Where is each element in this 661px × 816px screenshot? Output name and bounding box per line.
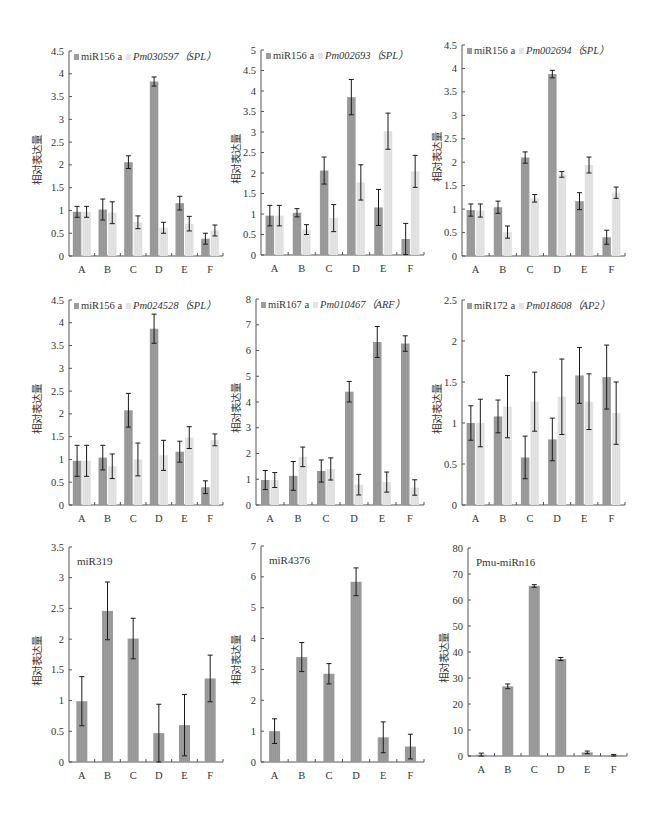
legend-label: miR156 a — [81, 51, 122, 62]
x-tick-label: C — [531, 764, 538, 775]
chart-title: miR4376 — [269, 554, 310, 566]
legend: miR156 aPm030597（SPL） — [74, 51, 216, 62]
y-tick-label: 3 — [251, 127, 256, 138]
y-tick-label: 4 — [59, 68, 65, 79]
chart-panel-1: 00.511.522.533.544.5ABCDEF相对表达量miR156 aP… — [31, 46, 223, 276]
y-tick-label: 1 — [251, 726, 256, 737]
y-tick-label: 0 — [452, 500, 457, 511]
y-tick-label: 2.5 — [51, 137, 64, 148]
x-tick-label: B — [504, 764, 511, 775]
y-tick-label: 0 — [59, 757, 64, 768]
y-tick-label: 1 — [59, 454, 64, 465]
chart-title: Pmu-miRn16 — [476, 556, 536, 568]
bar-pm002694-spl- — [585, 165, 594, 256]
x-tick-label: D — [352, 263, 360, 274]
x-tick-label: B — [499, 264, 506, 275]
chart-panel-7: 00.511.522.533.5ABCDEF相对表达量miR319 — [31, 542, 223, 782]
y-tick-label: 0.5 — [51, 477, 64, 488]
x-tick-label: B — [104, 264, 111, 275]
y-tick-label: 3 — [59, 363, 64, 374]
legend: miR172 aPm018608（AP2） — [467, 300, 610, 311]
x-tick-label: D — [155, 264, 163, 275]
legend-label: miR156 a — [273, 50, 314, 61]
bar-mir156-a — [150, 82, 159, 256]
bar-pm002694-spl- — [612, 193, 621, 256]
bar-pm024528-spl- — [211, 440, 220, 505]
x-tick-label: F — [407, 770, 413, 781]
y-tick-label: 6 — [251, 571, 256, 582]
y-tick-label: 1 — [59, 695, 64, 706]
bar-mir4376 — [351, 582, 362, 762]
x-tick-label: C — [325, 770, 332, 781]
y-tick-label: 5 — [251, 602, 256, 613]
y-tick-label: 1 — [59, 205, 64, 216]
x-tick-label: A — [266, 513, 274, 524]
x-tick-label: A — [78, 513, 86, 524]
y-axis-label: 相对表达量 — [230, 133, 242, 184]
y-tick-label: 5 — [246, 371, 251, 382]
y-axis-label: 相对表达量 — [31, 635, 43, 686]
bar-mir156-a — [176, 203, 185, 256]
x-tick-label: A — [271, 770, 279, 781]
bar-pmu-mirn16 — [502, 686, 513, 756]
y-tick-label: 70 — [453, 569, 464, 580]
bar-mir167-a — [345, 392, 354, 505]
bar-mir167-a — [401, 344, 410, 505]
legend-label: Pm030597（SPL） — [132, 51, 216, 62]
figure: 00.511.522.533.544.5ABCDEF相对表达量miR156 aP… — [0, 0, 661, 816]
y-tick-label: 3 — [251, 664, 256, 675]
bar-mir156-a — [494, 207, 503, 256]
y-axis-label: 相对表达量 — [230, 382, 242, 433]
y-tick-label: 2 — [251, 168, 256, 179]
legend-label: Pm002693（SPL） — [324, 50, 408, 61]
x-tick-label: F — [611, 764, 617, 775]
y-tick-label: 4 — [251, 633, 257, 644]
y-axis-label: 相对表达量 — [230, 634, 242, 685]
y-tick-label: 3.5 — [243, 106, 256, 117]
y-tick-label: 2.5 — [51, 603, 64, 614]
y-tick-label: 0 — [452, 251, 457, 262]
x-tick-label: F — [207, 770, 213, 781]
y-tick-label: 4.5 — [51, 295, 64, 306]
x-tick-label: C — [322, 513, 329, 524]
legend-swatch — [126, 303, 131, 309]
y-axis-label: 相对表达量 — [438, 632, 450, 683]
legend-label: miR172 a — [474, 300, 515, 311]
y-tick-label: 0 — [458, 751, 463, 762]
bar-pmu-mirn16 — [529, 586, 540, 756]
y-tick-label: 2 — [246, 448, 251, 459]
y-tick-label: 2.5 — [51, 386, 64, 397]
chart-panel-5: 012345678ABCDEF相对表达量miR167 aPm010467（ARF… — [230, 294, 424, 525]
x-tick-label: E — [181, 513, 187, 524]
bar-mir156-a — [467, 210, 476, 256]
legend-label: miR167 a — [268, 299, 309, 310]
legend: miR156 aPm002693（SPL） — [266, 50, 408, 61]
y-tick-label: 1.5 — [51, 182, 64, 193]
y-tick-label: 2 — [59, 634, 64, 645]
legend-swatch — [467, 48, 472, 54]
y-tick-label: 3.5 — [51, 542, 64, 553]
x-tick-label: E — [380, 770, 386, 781]
x-tick-label: C — [130, 770, 137, 781]
legend-swatch — [74, 303, 79, 309]
legend-swatch — [261, 302, 266, 308]
x-tick-label: F — [207, 513, 213, 524]
bar-mir156-a — [150, 329, 159, 505]
x-tick-label: C — [325, 263, 332, 274]
x-tick-label: F — [407, 263, 413, 274]
y-tick-label: 2 — [251, 695, 256, 706]
y-tick-label: 3 — [59, 572, 64, 583]
x-tick-label: A — [271, 263, 279, 274]
y-tick-label: 4.5 — [243, 65, 256, 76]
x-tick-label: D — [350, 513, 358, 524]
y-tick-label: 0.5 — [243, 229, 256, 240]
x-tick-label: E — [181, 264, 187, 275]
legend: miR167 aPm010467（ARF） — [261, 299, 405, 310]
y-tick-label: 10 — [453, 725, 464, 736]
y-tick-label: 1 — [246, 474, 251, 485]
x-tick-label: E — [181, 770, 187, 781]
x-tick-label: A — [477, 764, 485, 775]
x-tick-label: B — [104, 770, 111, 781]
bar-mir156-a — [548, 74, 557, 256]
bar-mir156-a — [347, 97, 356, 255]
